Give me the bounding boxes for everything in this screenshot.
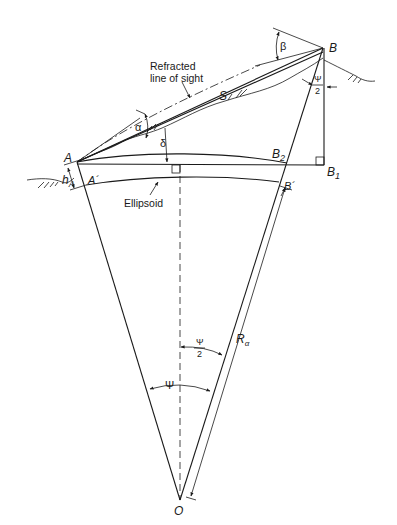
alpha-arc [145,114,148,138]
top-psi-half-num-label: Ψ [314,74,322,84]
point-o-label: O [174,504,183,518]
point-a-prime-label: A´ [87,174,99,186]
radial-a-o [77,162,180,500]
refracted-label-1: Refracted [150,60,196,72]
top-psi-half-den-label: 2 [315,86,320,96]
point-a-label: A [63,151,72,165]
beta-label: β [280,40,286,52]
refracted-label-2: line of sight [150,72,203,84]
level-surface-a [77,154,287,163]
ha-label: hA [62,173,75,189]
ground-hatches [147,89,247,132]
leveling-diagram: Refracted line of sight A A´ B B1 B2 B´ … [0,0,397,525]
ellipsoid-label: Ellipsoid [124,197,163,209]
point-b-prime-label: B´ [284,180,295,192]
right-angle-mid [172,165,180,173]
psi-half-num-label: Ψ [196,337,204,347]
right-angle-b1 [316,157,324,165]
slope-distance-label: S [219,89,227,103]
horizontal-a-b1 [77,164,324,165]
beta-arc [276,32,279,60]
radius-label: Rα [236,332,250,348]
alpha-label: α [135,121,142,133]
radial-b-o [180,48,323,500]
terrain-right [324,60,375,83]
point-b2-label: B2 [272,147,285,163]
psi-half-den-label: 2 [197,349,202,359]
point-b-label: B [329,41,337,55]
chord-line [77,52,323,162]
psi-label: Ψ [165,379,174,391]
delta-label: δ [160,137,166,149]
point-b1-label: B1 [327,165,340,181]
ellipsoid-curve [86,177,279,185]
